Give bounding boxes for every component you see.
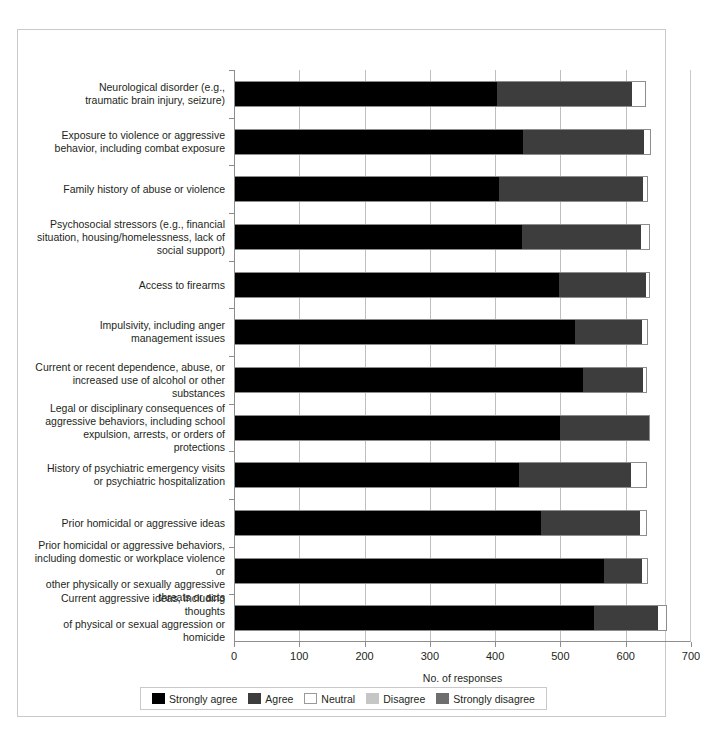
- stacked-bar[interactable]: [234, 558, 648, 584]
- category-label-line: Legal or disciplinary consequences of: [29, 402, 225, 415]
- bar-segment-neutral[interactable]: [632, 81, 646, 107]
- bar-segment-strongly-agree[interactable]: [234, 224, 522, 250]
- bar-segment-neutral[interactable]: [643, 176, 648, 202]
- stacked-bar[interactable]: [234, 319, 648, 345]
- gridline: [560, 70, 561, 642]
- category-axis-tick: [229, 499, 234, 500]
- category-label-line: of physical or sexual aggression or homi…: [29, 618, 225, 644]
- bar-segment-agree[interactable]: [575, 319, 642, 345]
- legend-item-neutral[interactable]: Neutral: [304, 693, 355, 705]
- bar-row[interactable]: Prior homicidal or aggressive ideas: [234, 510, 691, 536]
- bar-segment-agree[interactable]: [497, 81, 632, 107]
- stacked-bar[interactable]: [234, 81, 646, 107]
- bar-segment-neutral[interactable]: [658, 605, 666, 631]
- category-label: Neurological disorder (e.g.,traumatic br…: [29, 81, 225, 107]
- category-label-line: Current or recent dependence, abuse, or: [29, 360, 225, 373]
- category-label-line: Prior homicidal or aggressive ideas: [29, 516, 225, 529]
- category-axis-tick: [229, 308, 234, 309]
- category-label-line: aggressive behaviors, including school: [29, 415, 225, 428]
- x-axis-tick-label: 300: [410, 650, 450, 662]
- category-axis-tick: [229, 547, 234, 548]
- bar-segment-agree[interactable]: [594, 605, 659, 631]
- bar-segment-strongly-agree[interactable]: [234, 510, 541, 536]
- bar-segment-neutral[interactable]: [641, 224, 650, 250]
- bar-row[interactable]: Family history of abuse or violence: [234, 176, 691, 202]
- bar-segment-neutral[interactable]: [643, 367, 646, 393]
- category-label: Current aggressive ideas, including thou…: [29, 592, 225, 644]
- stacked-bar[interactable]: [234, 462, 647, 488]
- stacked-bar[interactable]: [234, 176, 648, 202]
- category-label-line: Exposure to violence or aggressive: [29, 129, 225, 142]
- category-label-line: including domestic or workplace violence…: [29, 551, 225, 577]
- stacked-bar[interactable]: [234, 415, 650, 441]
- bar-segment-strongly-agree[interactable]: [234, 129, 523, 155]
- gridline: [495, 70, 496, 642]
- legend-label: Disagree: [383, 693, 425, 705]
- legend-label: Neutral: [321, 693, 355, 705]
- bar-segment-strongly-agree[interactable]: [234, 176, 499, 202]
- stacked-bar[interactable]: [234, 129, 651, 155]
- bar-segment-neutral[interactable]: [646, 272, 650, 298]
- x-axis-tick-label: 200: [345, 650, 385, 662]
- legend-item-disagree[interactable]: Disagree: [366, 693, 425, 705]
- stacked-bar[interactable]: [234, 605, 667, 631]
- legend-item-agree[interactable]: Agree: [248, 693, 293, 705]
- bar-segment-neutral[interactable]: [644, 129, 651, 155]
- bar-segment-neutral[interactable]: [642, 319, 648, 345]
- bar-segment-agree[interactable]: [499, 176, 643, 202]
- bar-segment-neutral[interactable]: [631, 462, 647, 488]
- bar-segment-neutral[interactable]: [640, 510, 647, 536]
- bar-segment-agree[interactable]: [522, 224, 641, 250]
- bar-segment-strongly-agree[interactable]: [234, 462, 519, 488]
- category-axis-tick: [229, 451, 234, 452]
- stacked-bar[interactable]: [234, 510, 647, 536]
- category-label-line: other physically or sexually aggressive: [29, 577, 225, 590]
- bar-segment-strongly-agree[interactable]: [234, 81, 497, 107]
- x-axis-tick: [234, 642, 235, 647]
- bar-segment-neutral[interactable]: [642, 558, 648, 584]
- bar-segment-strongly-agree[interactable]: [234, 272, 559, 298]
- bar-row[interactable]: Legal or disciplinary consequences ofagg…: [234, 415, 691, 441]
- bar-segment-agree[interactable]: [559, 272, 646, 298]
- bar-segment-agree[interactable]: [583, 367, 644, 393]
- legend-item-strongly-agree[interactable]: Strongly agree: [152, 693, 237, 705]
- category-label: Exposure to violence or aggressivebehavi…: [29, 129, 225, 155]
- bar-segment-agree[interactable]: [541, 510, 640, 536]
- bar-segment-strongly-agree[interactable]: [234, 605, 594, 631]
- bar-segment-strongly-agree[interactable]: [234, 319, 575, 345]
- bar-row[interactable]: Neurological disorder (e.g.,traumatic br…: [234, 81, 691, 107]
- bar-row[interactable]: Psychosocial stressors (e.g., financials…: [234, 224, 691, 250]
- bar-row[interactable]: Impulsivity, including angermanagement i…: [234, 319, 691, 345]
- stacked-bar[interactable]: [234, 224, 650, 250]
- x-axis-tick-label: 500: [540, 650, 580, 662]
- bar-row[interactable]: Prior homicidal or aggressive behaviors,…: [234, 558, 691, 584]
- legend-label: Strongly agree: [169, 693, 237, 705]
- bar-segment-agree[interactable]: [523, 129, 644, 155]
- category-label: Access to firearms: [29, 278, 225, 291]
- bar-segment-strongly-agree[interactable]: [234, 558, 604, 584]
- category-label-line: traumatic brain injury, seizure): [29, 94, 225, 107]
- gridline: [299, 70, 300, 642]
- category-label: Impulsivity, including angermanagement i…: [29, 319, 225, 345]
- stacked-bar[interactable]: [234, 367, 647, 393]
- category-label-line: History of psychiatric emergency visits: [29, 462, 225, 475]
- bar-segment-strongly-agree[interactable]: [234, 415, 560, 441]
- category-label-line: increased use of alcohol or other substa…: [29, 373, 225, 399]
- stacked-bar[interactable]: [234, 272, 650, 298]
- gridline: [626, 70, 627, 642]
- bar-segment-agree[interactable]: [519, 462, 631, 488]
- bar-row[interactable]: History of psychiatric emergency visitso…: [234, 462, 691, 488]
- bar-segment-agree[interactable]: [560, 415, 650, 441]
- category-axis-tick: [229, 70, 234, 71]
- category-label-line: Neurological disorder (e.g.,: [29, 81, 225, 94]
- legend-item-strongly-disagree[interactable]: Strongly disagree: [436, 693, 535, 705]
- figure-frame: Neurological disorder (e.g.,traumatic br…: [17, 29, 666, 717]
- bar-segment-strongly-agree[interactable]: [234, 367, 583, 393]
- category-label: Prior homicidal or aggressive ideas: [29, 516, 225, 529]
- bar-row[interactable]: Current or recent dependence, abuse, ori…: [234, 367, 691, 393]
- x-axis-tick-label: 400: [475, 650, 515, 662]
- bar-row[interactable]: Exposure to violence or aggressivebehavi…: [234, 129, 691, 155]
- bar-row[interactable]: Access to firearms: [234, 272, 691, 298]
- bar-segment-agree[interactable]: [604, 558, 643, 584]
- bar-row[interactable]: Current aggressive ideas, including thou…: [234, 605, 691, 631]
